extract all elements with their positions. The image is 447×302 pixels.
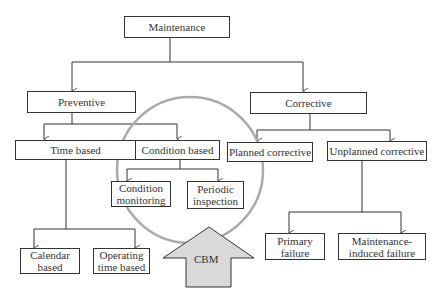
node-primary-failure: Primary failure — [265, 233, 325, 260]
node-unplanned-corrective: Unplanned corrective — [327, 141, 427, 161]
node-condition-monitoring: Condition monitoring — [111, 181, 171, 207]
node-maintenance-induced-failure: Maintenance-induced failure — [338, 233, 426, 260]
node-time-based: Time based — [15, 140, 136, 160]
node-planned-corrective: Planned corrective — [227, 142, 313, 162]
node-preventive: Preventive — [27, 91, 136, 113]
cbm-scope-circle — [117, 97, 263, 243]
node-periodic-inspection: Periodic inspection — [187, 181, 244, 209]
node-maintenance: Maintenance — [124, 16, 230, 38]
cbm-label: CBM — [194, 253, 218, 265]
node-condition-based: Condition based — [135, 140, 220, 160]
node-calendar-based: Calendar based — [20, 248, 80, 274]
node-corrective: Corrective — [250, 92, 367, 114]
node-operating-time-based: Operating time based — [93, 248, 150, 274]
